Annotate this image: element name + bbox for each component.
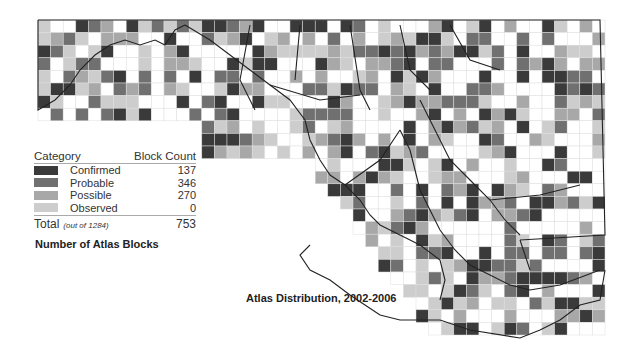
legend-header: Category Block Count bbox=[34, 150, 196, 164]
legend: Category Block Count Confirmed 137 Proba… bbox=[34, 150, 196, 231]
legend-header-category: Category bbox=[34, 150, 81, 162]
legend-row-possible: Possible 270 bbox=[34, 189, 196, 202]
swatch-confirmed bbox=[34, 166, 58, 175]
swatch-possible bbox=[34, 191, 58, 200]
legend-label: Observed bbox=[70, 202, 190, 214]
map-caption: Atlas Distribution, 2002-2006 bbox=[246, 292, 396, 304]
legend-count: 346 bbox=[178, 177, 196, 189]
legend-row-confirmed: Confirmed 137 bbox=[34, 164, 196, 177]
legend-count: 270 bbox=[178, 189, 196, 201]
legend-subtitle: Number of Atlas Blocks bbox=[35, 238, 159, 250]
legend-row-probable: Probable 346 bbox=[34, 177, 196, 190]
total-label: Total bbox=[34, 217, 59, 231]
legend-row-observed: Observed 0 bbox=[34, 202, 196, 215]
total-count: 753 bbox=[176, 217, 196, 231]
legend-header-count: Block Count bbox=[134, 150, 196, 162]
total-note: (out of 1284) bbox=[63, 221, 108, 230]
legend-label: Possible bbox=[70, 189, 178, 201]
swatch-observed bbox=[34, 203, 58, 212]
swatch-probable bbox=[34, 178, 58, 187]
legend-total: Total(out of 1284) 753 bbox=[34, 215, 196, 231]
legend-count: 137 bbox=[178, 164, 196, 176]
legend-label: Probable bbox=[70, 177, 178, 189]
legend-label: Confirmed bbox=[70, 164, 178, 176]
legend-count: 0 bbox=[190, 202, 196, 214]
